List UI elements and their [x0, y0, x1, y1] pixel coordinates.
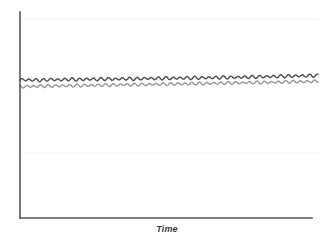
- chart-canvas: [0, 0, 328, 245]
- chart-background: [0, 0, 328, 245]
- chart-figure: Time: [0, 0, 328, 245]
- x-axis-label: Time: [156, 224, 178, 234]
- x-axis-label-container: Time: [0, 224, 328, 234]
